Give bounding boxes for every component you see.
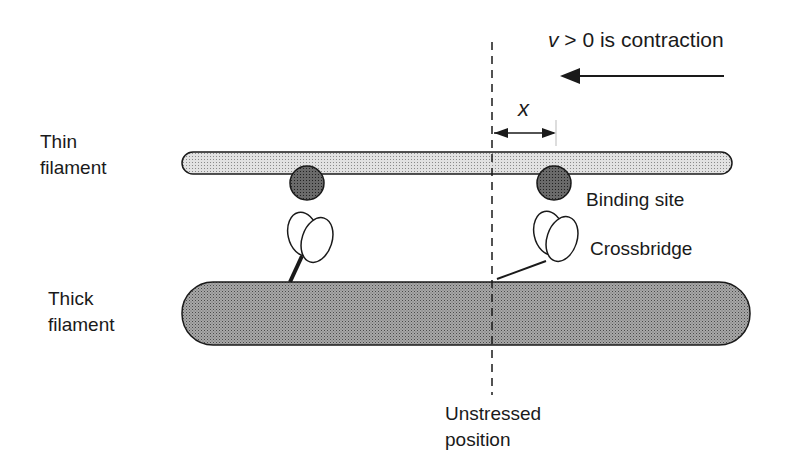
crossbridge-left: [284, 209, 339, 282]
x-displacement-arrow: [494, 120, 556, 146]
thin-filament-label-line1: Thin: [40, 130, 77, 153]
thick-filament-label-line2: filament: [48, 313, 115, 336]
velocity-variable: v: [548, 28, 559, 51]
binding-site-label: Binding site: [586, 188, 684, 211]
contraction-arrow: [560, 68, 724, 84]
thick-filament-label-line1: Thick: [48, 287, 93, 310]
thick-filament: [182, 282, 750, 345]
unstressed-label-line2: position: [445, 428, 511, 451]
x-label: x: [518, 97, 529, 120]
unstressed-label-line1: Unstressed: [445, 402, 541, 425]
crossbridge-diagram: [0, 0, 810, 470]
binding-site-left: [290, 166, 324, 200]
crossbridge-right: [497, 208, 583, 279]
thin-filament-label-line2: filament: [40, 156, 107, 179]
thin-filament: [182, 152, 732, 174]
crossbridge-label: Crossbridge: [590, 237, 692, 260]
velocity-label: v > 0 is contraction: [548, 28, 724, 51]
binding-site-right: [537, 166, 571, 200]
velocity-description: > 0 is contraction: [564, 28, 723, 51]
